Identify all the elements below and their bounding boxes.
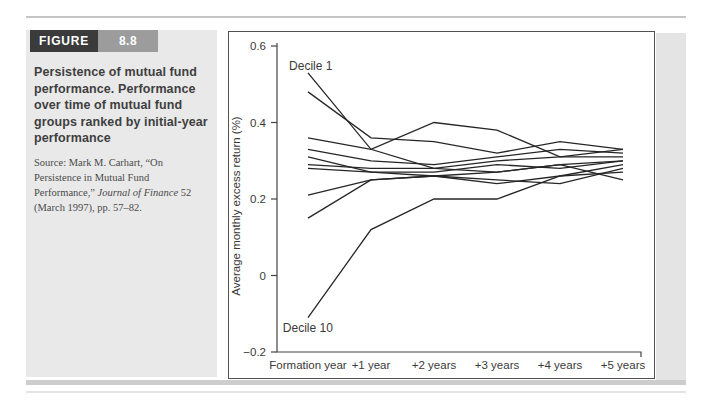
x-axis-tick-label: +1 year <box>352 359 391 371</box>
y-axis-tick-label: 0.2 <box>250 193 266 205</box>
annotation-decile-10: Decile 10 <box>283 321 333 335</box>
figure-caption: Persistence of mutual fund performance. … <box>34 64 209 147</box>
figure-label: FIGURE <box>30 30 98 52</box>
x-axis-tick-label: +5 years <box>601 359 646 371</box>
x-axis-tick-label: Formation year <box>269 359 347 371</box>
source-journal-title: Journal of Finance <box>98 187 178 198</box>
y-axis-tick-label: −0.2 <box>243 346 266 358</box>
figure-sidebar: FIGURE 8.8 Persistence of mutual fund pe… <box>26 30 217 377</box>
chart-container: 0.60.40.20−0.2Formation year+1 year+2 ye… <box>228 31 655 379</box>
y-axis-tick-label: 0 <box>260 270 266 282</box>
series-line-decile-9 <box>308 161 623 218</box>
series-line-decile-10 <box>308 165 623 318</box>
series-line-decile-8 <box>308 168 623 195</box>
figure-source: Source: Mark M. Carhart, “On Persistence… <box>34 155 209 216</box>
persistence-chart: 0.60.40.20−0.2Formation year+1 year+2 ye… <box>229 32 654 378</box>
bottom-divider-secondary <box>26 391 686 393</box>
figure-header: FIGURE 8.8 <box>30 30 217 52</box>
x-axis-tick-label: +3 years <box>475 359 520 371</box>
axes <box>277 43 641 357</box>
series-line-decile-1 <box>308 73 623 169</box>
y-axis-tick-label: 0.6 <box>250 40 266 52</box>
y-axis-tick-label: 0.4 <box>250 117 267 129</box>
x-axis-tick-label: +2 years <box>412 359 457 371</box>
top-divider <box>26 16 686 18</box>
series-line-decile-2 <box>308 92 623 153</box>
figure-number: 8.8 <box>98 30 158 52</box>
annotation-decile-1: Decile 1 <box>289 59 333 73</box>
page-margin-shading <box>656 33 686 385</box>
bottom-divider <box>26 380 686 385</box>
y-axis-title: Average monthly excess return (%) <box>230 116 242 296</box>
series-line-decile-3 <box>308 123 623 157</box>
figure-panel: FIGURE 8.8 Persistence of mutual fund pe… <box>0 0 704 415</box>
x-axis-tick-label: +4 years <box>538 359 583 371</box>
